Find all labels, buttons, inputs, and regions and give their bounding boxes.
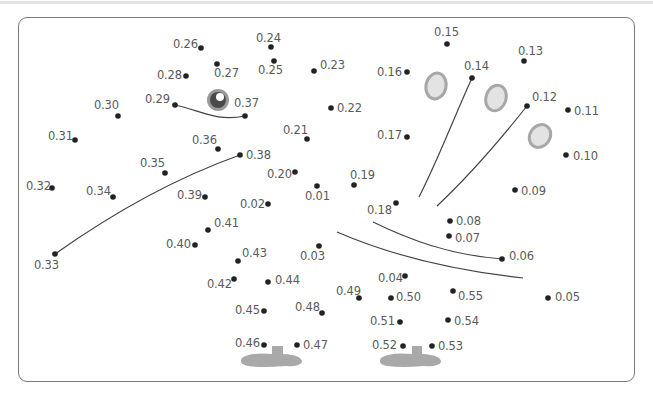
dot-label: 0.46 <box>235 338 260 350</box>
dot-label: 0.51 <box>370 316 395 328</box>
dot-label: 0.14 <box>464 61 489 73</box>
dot-point <box>202 194 208 200</box>
dot-label: 0.30 <box>94 100 119 112</box>
dot-point <box>563 152 569 158</box>
dot-label: 0.20 <box>267 169 292 181</box>
dot-label: 0.13 <box>518 46 543 58</box>
dot-label: 0.49 <box>336 286 361 298</box>
dot-label: 0.16 <box>377 67 402 79</box>
dot-point <box>261 342 267 348</box>
dot-point <box>402 273 408 279</box>
dot-label: 0.26 <box>173 39 198 51</box>
dot-label: 0.06 <box>509 251 534 263</box>
dot-point <box>192 242 198 248</box>
dot-label: 0.43 <box>242 248 267 260</box>
dot-point <box>469 75 475 81</box>
dot-label: 0.28 <box>157 70 182 82</box>
dot-point <box>242 113 248 119</box>
dot-point <box>172 102 178 108</box>
dot-point <box>265 201 271 207</box>
dot-label: 0.55 <box>458 291 483 303</box>
dot-label: 0.07 <box>455 233 480 245</box>
dot-point <box>445 317 451 323</box>
oval-shape-3 <box>525 120 555 151</box>
dot-point <box>304 136 310 142</box>
dot-point <box>311 68 317 74</box>
dot-point <box>404 69 410 75</box>
dot-point <box>72 137 78 143</box>
dot-point <box>183 73 189 79</box>
dot-label: 0.25 <box>258 65 283 77</box>
dot-point <box>215 146 221 152</box>
dot-label: 0.35 <box>140 158 165 170</box>
dot-point <box>388 295 394 301</box>
dot-point <box>524 103 530 109</box>
dot-label: 0.15 <box>434 27 459 39</box>
dot-point <box>446 233 452 239</box>
dot-point <box>205 227 211 233</box>
dot-label: 0.23 <box>320 60 345 72</box>
dot-label: 0.38 <box>246 150 271 162</box>
dot-point <box>400 343 406 349</box>
dot-label: 0.05 <box>555 292 580 304</box>
dot-label: 0.34 <box>86 186 111 198</box>
dot-label: 0.21 <box>283 125 308 137</box>
dot-label: 0.42 <box>207 279 232 291</box>
dot-label: 0.01 <box>305 191 330 203</box>
dot-point <box>292 169 298 175</box>
dot-label: 0.32 <box>26 181 51 193</box>
dot-point <box>328 105 334 111</box>
dot-point <box>115 113 121 119</box>
dot-label: 0.11 <box>574 106 599 118</box>
dot-point <box>447 218 453 224</box>
dot-point <box>162 170 168 176</box>
dot-point <box>512 187 518 193</box>
dot-label: 0.10 <box>573 151 598 163</box>
dot-point <box>393 200 399 206</box>
dot-point <box>565 107 571 113</box>
dot-point <box>404 134 410 140</box>
dot-label: 0.44 <box>275 275 300 287</box>
dot-label: 0.22 <box>337 103 362 115</box>
dot-label: 0.33 <box>34 260 59 272</box>
dot-point <box>521 58 527 64</box>
dot-point <box>268 44 274 50</box>
dot-label: 0.54 <box>454 316 479 328</box>
dot-label: 0.24 <box>256 33 281 45</box>
dot-label: 0.41 <box>214 218 239 230</box>
dot-point <box>499 256 505 262</box>
dot-point <box>52 251 58 257</box>
dot-label: 0.12 <box>532 92 557 104</box>
dot-label: 0.48 <box>295 302 320 314</box>
dot-label: 0.53 <box>438 341 463 353</box>
dot-label: 0.17 <box>377 130 402 142</box>
dot-label: 0.29 <box>145 94 170 106</box>
dot-label: 0.04 <box>378 273 403 285</box>
oval-shape-1 <box>424 71 449 101</box>
dot-point <box>450 288 456 294</box>
dot-point <box>294 342 300 348</box>
dot-point <box>110 194 116 200</box>
dot-point <box>351 182 357 188</box>
dot-point <box>397 319 403 325</box>
dot-label: 0.08 <box>456 216 481 228</box>
dot-label: 0.37 <box>234 98 259 110</box>
dot-point <box>235 258 241 264</box>
dot-point <box>237 152 243 158</box>
dot-label: 0.39 <box>177 190 202 202</box>
dot-label: 0.27 <box>214 68 239 80</box>
dot-label: 0.36 <box>192 135 217 147</box>
oval-shape-2 <box>482 83 509 114</box>
dot-point <box>198 45 204 51</box>
dot-point <box>261 308 267 314</box>
dot-point <box>319 310 325 316</box>
dot-point <box>444 41 450 47</box>
dot-label: 0.03 <box>300 251 325 263</box>
dot-label: 0.47 <box>303 340 328 352</box>
dot-point <box>545 295 551 301</box>
dot-point <box>231 276 237 282</box>
eye-icon <box>207 89 229 111</box>
dot-label: 0.52 <box>372 340 397 352</box>
dot-point <box>316 243 322 249</box>
dot-point <box>314 183 320 189</box>
